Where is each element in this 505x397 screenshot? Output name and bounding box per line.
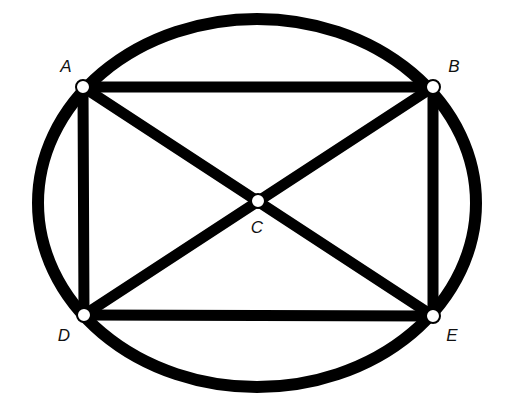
label-d: D <box>58 327 70 344</box>
node-d <box>77 308 91 322</box>
edge-ed <box>84 315 433 316</box>
label-a: A <box>60 58 71 75</box>
label-e: E <box>446 327 457 344</box>
node-b <box>426 80 440 94</box>
edge-da <box>83 87 84 315</box>
label-b: B <box>448 58 459 75</box>
node-c <box>251 194 265 208</box>
node-e <box>426 309 440 323</box>
label-c: C <box>251 219 263 236</box>
geometry-diagram <box>0 0 505 397</box>
node-a <box>76 80 90 94</box>
